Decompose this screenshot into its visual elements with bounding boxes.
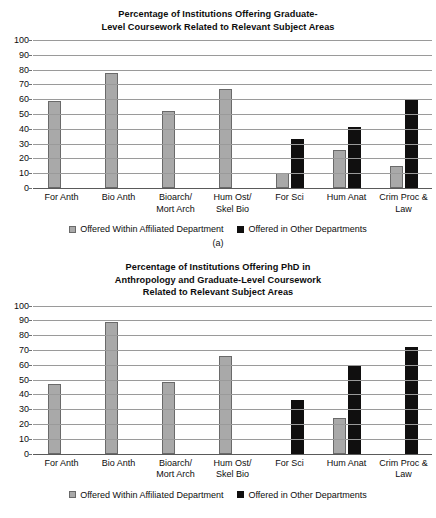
legend-swatch-gray-icon <box>69 226 76 233</box>
x-axis-tick-label: Bio Anth <box>90 458 147 481</box>
x-axis-tick-label: Bio Anth <box>90 192 147 215</box>
x-axis-tick-label: For Anth <box>33 458 90 481</box>
chart-b-title-line-3: Related to Relevant Subject Areas <box>38 286 398 299</box>
x-axis-tick-label: Bioarch/Mort Arch <box>147 458 204 481</box>
bar <box>291 139 304 188</box>
gridline <box>33 380 432 381</box>
y-axis-tick-label: 40 <box>19 124 29 133</box>
y-axis-tick-label: 90 <box>19 50 29 59</box>
chart-b-plot-area: 0102030405060708090100 <box>0 306 436 455</box>
gridline <box>33 394 432 395</box>
chart-a-plot-area: 0102030405060708090100 <box>0 40 436 189</box>
gridline <box>33 409 432 410</box>
bar <box>162 111 175 188</box>
y-axis-tick-label: 80 <box>19 331 29 340</box>
gridline <box>33 158 432 159</box>
y-axis-tick-mark <box>29 409 32 410</box>
gridline <box>33 84 432 85</box>
y-axis-tick-label: 30 <box>19 405 29 414</box>
x-axis-tick-label: Bioarch/Mort Arch <box>147 192 204 215</box>
chart-a-title-line-2: Level Coursework Related to Relevant Sub… <box>38 21 398 34</box>
gridline <box>33 70 432 71</box>
y-axis-tick-mark <box>29 394 32 395</box>
gridline <box>33 365 432 366</box>
y-axis-tick-mark <box>29 454 32 455</box>
gridline <box>33 114 432 115</box>
x-axis-tick-label: Hum Anat <box>318 458 375 481</box>
x-axis-tick-label: Crim Proc &Law <box>375 192 432 215</box>
y-axis-tick-mark <box>29 424 32 425</box>
chart-a-legend: Offered Within Affiliated Department Off… <box>0 224 436 234</box>
figure-a: Percentage of Institutions Offering Grad… <box>0 0 436 249</box>
x-axis-tick-label: Hum Ost/Skel Bio <box>204 192 261 215</box>
y-axis-tick-mark <box>29 40 32 41</box>
legend-label-affiliated: Offered Within Affiliated Department <box>80 224 223 234</box>
x-axis-tick-label: For Sci <box>261 458 318 481</box>
y-axis-tick-label: 60 <box>19 95 29 104</box>
y-axis-tick-mark <box>29 350 32 351</box>
y-axis-tick-mark <box>29 129 32 130</box>
bar <box>333 150 346 188</box>
y-axis-tick-label: 0 <box>24 449 29 458</box>
y-axis-tick-mark <box>29 70 32 71</box>
gridline <box>33 129 432 130</box>
chart-a-title-line-1: Percentage of Institutions Offering Grad… <box>38 8 398 21</box>
y-axis-tick-mark <box>29 84 32 85</box>
y-axis-tick-mark <box>29 365 32 366</box>
y-axis-tick-mark <box>29 306 32 307</box>
x-axis-tick-label: Hum Ost/Skel Bio <box>204 458 261 481</box>
y-axis-tick-label: 70 <box>19 80 29 89</box>
gridline <box>33 144 432 145</box>
legend-swatch-black-icon <box>237 226 244 233</box>
x-axis-tick-label: Crim Proc &Law <box>375 458 432 481</box>
legend-item-other: Offered in Other Departments <box>237 224 366 234</box>
chart-a-plot: 0102030405060708090100 <box>33 40 432 189</box>
bar <box>105 73 118 188</box>
figure-a-caption: (a) <box>0 238 436 249</box>
y-axis-tick-label: 60 <box>19 360 29 369</box>
legend-label-other: Offered in Other Departments <box>248 490 366 500</box>
y-axis-tick-label: 50 <box>19 375 29 384</box>
chart-b-x-axis-labels: For AnthBio AnthBioarch/Mort ArchHum Ost… <box>0 458 436 481</box>
y-axis-tick-label: 10 <box>19 434 29 443</box>
y-axis-tick-mark <box>29 173 32 174</box>
y-axis-tick-mark <box>29 335 32 336</box>
x-axis-tick-label: Hum Anat <box>318 192 375 215</box>
bar <box>405 347 418 454</box>
bar <box>390 166 403 188</box>
y-axis-tick-label: 0 <box>24 184 29 193</box>
gridline <box>33 335 432 336</box>
y-axis-tick-label: 70 <box>19 345 29 354</box>
y-axis-tick-mark <box>29 114 32 115</box>
y-axis-tick-label: 100 <box>14 36 29 45</box>
gridline <box>33 55 432 56</box>
chart-b-legend: Offered Within Affiliated Department Off… <box>0 490 436 500</box>
chart-b-title-line-1: Percentage of Institutions Offering PhD … <box>38 261 398 274</box>
y-axis-tick-label: 90 <box>19 316 29 325</box>
y-axis-tick-label: 50 <box>19 110 29 119</box>
gridline <box>33 173 432 174</box>
chart-a-x-axis-labels: For AnthBio AnthBioarch/Mort ArchHum Ost… <box>0 192 436 215</box>
legend-swatch-gray-icon <box>69 491 76 498</box>
gridline <box>33 306 432 307</box>
legend-label-affiliated: Offered Within Affiliated Department <box>80 490 223 500</box>
y-axis-tick-label: 20 <box>19 419 29 428</box>
y-axis-tick-mark <box>29 55 32 56</box>
y-axis-tick-mark <box>29 439 32 440</box>
gridline <box>33 439 432 440</box>
legend-label-other: Offered in Other Departments <box>248 224 366 234</box>
figure-b: Percentage of Institutions Offering PhD … <box>0 249 436 500</box>
chart-b-title-line-2: Anthropology and Graduate-Level Coursewo… <box>38 274 398 287</box>
y-axis-tick-label: 10 <box>19 169 29 178</box>
y-axis-tick-label: 20 <box>19 154 29 163</box>
y-axis-tick-label: 100 <box>14 301 29 310</box>
bar <box>162 382 175 453</box>
y-axis-tick-mark <box>29 144 32 145</box>
y-axis-tick-mark <box>29 99 32 100</box>
bar <box>105 322 118 454</box>
y-axis-tick-mark <box>29 188 32 189</box>
legend-item-affiliated: Offered Within Affiliated Department <box>69 490 223 500</box>
legend-item-affiliated: Offered Within Affiliated Department <box>69 224 223 234</box>
gridline <box>33 40 432 41</box>
x-axis-tick-label: For Sci <box>261 192 318 215</box>
